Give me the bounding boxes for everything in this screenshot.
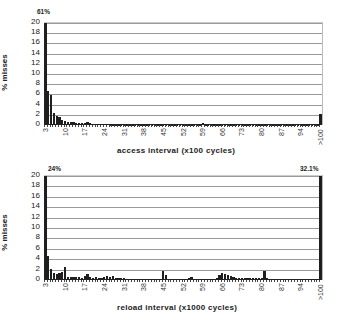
x-minor-tick bbox=[238, 125, 239, 127]
x-minor-tick bbox=[269, 280, 270, 282]
x-minor-tick bbox=[316, 125, 317, 127]
x-tick-label: 94 bbox=[297, 129, 304, 137]
x-minor-tick bbox=[168, 125, 169, 127]
x-minor-tick bbox=[227, 280, 228, 282]
x-minor-tick bbox=[92, 280, 93, 282]
x-minor-tick bbox=[55, 125, 56, 127]
x-minor-tick bbox=[235, 125, 236, 127]
x-minor-tick bbox=[187, 125, 188, 127]
x-minor-tick bbox=[148, 125, 149, 127]
y-tick-label: 8 bbox=[24, 79, 40, 87]
x-minor-tick bbox=[280, 125, 281, 127]
x-minor-tick bbox=[252, 125, 253, 127]
x-minor-tick bbox=[159, 280, 160, 282]
x-minor-tick bbox=[137, 125, 138, 127]
x-minor-tick bbox=[227, 125, 228, 127]
y-tick-label: 18 bbox=[24, 28, 40, 36]
x-minor-tick bbox=[190, 280, 191, 282]
x-axis-label: reload interval (x1000 cycles) bbox=[117, 303, 237, 312]
y-tick-label: 20 bbox=[24, 171, 40, 179]
x-tick-label: 94 bbox=[297, 284, 304, 292]
x-minor-tick bbox=[274, 125, 275, 127]
x-tick-label: 52 bbox=[180, 129, 187, 137]
x-minor-tick bbox=[50, 280, 51, 282]
x-tick-label: 73 bbox=[238, 284, 245, 292]
x-minor-tick bbox=[269, 125, 270, 127]
x-minor-tick bbox=[193, 280, 194, 282]
x-tick-label: 73 bbox=[238, 129, 245, 137]
y-tick-label: 4 bbox=[24, 100, 40, 108]
x-minor-tick bbox=[114, 125, 115, 127]
x-minor-tick bbox=[274, 280, 275, 282]
x-minor-tick bbox=[319, 280, 320, 282]
x-minor-tick bbox=[260, 280, 261, 282]
gridline bbox=[44, 186, 322, 187]
x-minor-tick bbox=[277, 280, 278, 282]
x-minor-tick bbox=[196, 125, 197, 127]
x-minor-tick bbox=[120, 125, 121, 127]
x-minor-tick bbox=[246, 125, 247, 127]
y-tick-label: 18 bbox=[24, 181, 40, 189]
x-minor-tick bbox=[255, 125, 256, 127]
x-minor-tick bbox=[201, 125, 202, 127]
x-minor-tick bbox=[300, 280, 301, 282]
x-minor-tick bbox=[134, 125, 135, 127]
plot-area bbox=[44, 175, 323, 280]
y-tick-label: 20 bbox=[24, 18, 40, 26]
gridline bbox=[44, 94, 322, 95]
y-tick-label: 12 bbox=[24, 59, 40, 67]
x-tick-label: 80 bbox=[258, 284, 265, 292]
y-tick-label: 2 bbox=[24, 265, 40, 273]
x-tick-label: >100 bbox=[317, 284, 324, 300]
gridline bbox=[44, 259, 322, 260]
x-minor-tick bbox=[142, 280, 143, 282]
x-minor-tick bbox=[95, 125, 96, 127]
x-tick-label: 17 bbox=[81, 129, 88, 137]
x-minor-tick bbox=[288, 280, 289, 282]
x-minor-tick bbox=[308, 280, 309, 282]
x-tick-label: 59 bbox=[199, 129, 206, 137]
x-tick-label: 45 bbox=[160, 284, 167, 292]
x-minor-tick bbox=[198, 125, 199, 127]
x-minor-tick bbox=[190, 125, 191, 127]
x-minor-tick bbox=[285, 280, 286, 282]
x-minor-tick bbox=[215, 280, 216, 282]
x-minor-tick bbox=[139, 280, 140, 282]
x-minor-tick bbox=[263, 280, 264, 282]
x-minor-tick bbox=[297, 125, 298, 127]
x-minor-tick bbox=[61, 280, 62, 282]
x-minor-tick bbox=[294, 280, 295, 282]
gridline bbox=[44, 64, 322, 65]
x-minor-tick bbox=[83, 280, 84, 282]
x-minor-tick bbox=[75, 280, 76, 282]
y-tick-label: 8 bbox=[24, 233, 40, 241]
x-tick-label: 24 bbox=[101, 284, 108, 292]
x-minor-tick bbox=[308, 125, 309, 127]
x-minor-tick bbox=[218, 125, 219, 127]
x-minor-tick bbox=[297, 280, 298, 282]
x-minor-tick bbox=[103, 280, 104, 282]
x-minor-tick bbox=[232, 280, 233, 282]
x-minor-tick bbox=[187, 280, 188, 282]
x-minor-tick bbox=[257, 280, 258, 282]
overflow-annotation-first-bar: 24% bbox=[48, 165, 61, 172]
x-minor-tick bbox=[50, 125, 51, 127]
x-minor-tick bbox=[83, 125, 84, 127]
y-tick-label: 0 bbox=[24, 120, 40, 128]
gridline bbox=[44, 218, 322, 219]
x-minor-tick bbox=[241, 280, 242, 282]
x-minor-tick bbox=[44, 125, 45, 127]
x-minor-tick bbox=[109, 280, 110, 282]
gridline bbox=[44, 105, 322, 106]
x-minor-tick bbox=[66, 280, 67, 282]
x-tick-label: 66 bbox=[219, 129, 226, 137]
x-minor-tick bbox=[316, 280, 317, 282]
x-minor-tick bbox=[100, 280, 101, 282]
x-minor-tick bbox=[89, 280, 90, 282]
y-tick-label: 10 bbox=[24, 223, 40, 231]
x-minor-tick bbox=[249, 125, 250, 127]
x-minor-tick bbox=[103, 125, 104, 127]
x-minor-tick bbox=[210, 280, 211, 282]
x-minor-tick bbox=[288, 125, 289, 127]
x-minor-tick bbox=[212, 125, 213, 127]
